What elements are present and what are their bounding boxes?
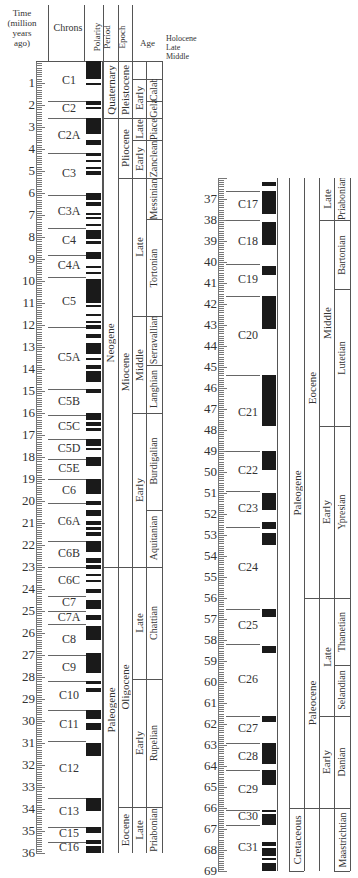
chron-boundary xyxy=(226,451,260,452)
normal-polarity-bar xyxy=(86,193,101,200)
normal-polarity-bar xyxy=(262,863,276,871)
age-label: Piacenzian xyxy=(148,118,160,140)
epoch-label: Eocene xyxy=(119,807,131,853)
axis-tick-label: 11 xyxy=(0,295,35,311)
axis-tick xyxy=(36,611,45,612)
chron-label: C13 xyxy=(50,804,88,819)
chron-boundary xyxy=(48,228,86,229)
normal-polarity-bar xyxy=(262,609,276,617)
normal-polarity-bar xyxy=(86,252,101,259)
axis-line xyxy=(218,178,219,871)
normal-polarity-bar xyxy=(86,521,101,525)
normal-polarity-bar xyxy=(86,325,101,329)
axis-tick xyxy=(36,721,45,722)
normal-polarity-bar xyxy=(262,266,276,274)
age-label: Aquitanian xyxy=(148,510,160,567)
chron-label: C25 xyxy=(228,618,268,633)
normal-polarity-bar xyxy=(86,230,101,239)
chron-boundary xyxy=(48,541,86,542)
axis-tick-label: 35 xyxy=(0,823,35,839)
chron-boundary xyxy=(48,681,86,682)
age-label: Priabonian xyxy=(336,178,348,220)
axis-tick-label: 58 xyxy=(190,632,217,648)
chron-boundary xyxy=(226,375,260,376)
normal-polarity-bar xyxy=(86,241,101,243)
normal-polarity-bar xyxy=(262,533,276,546)
age-label: Serravallian xyxy=(148,316,160,364)
axis-tick xyxy=(218,640,227,641)
axis-tick-label: 65 xyxy=(190,779,217,795)
axis-tick-label: 27 xyxy=(0,647,35,663)
axis-tick-label: 29 xyxy=(0,691,35,707)
axis-tick xyxy=(36,545,45,546)
axis-tick xyxy=(36,567,45,568)
chron-boundary xyxy=(226,296,260,297)
axis-tick-label: 5 xyxy=(0,163,35,179)
chron-boundary xyxy=(48,503,86,504)
chron-boundary xyxy=(48,624,86,625)
normal-polarity-bar xyxy=(86,532,101,536)
axis-tick-label: 9 xyxy=(0,251,35,267)
subepoch-label: Early xyxy=(320,426,332,598)
axis-tick xyxy=(218,745,227,746)
axis-tick xyxy=(218,514,227,515)
header-column-divider xyxy=(118,5,119,61)
axis-tick xyxy=(36,633,45,634)
chron-boundary xyxy=(226,609,260,610)
normal-polarity-bar xyxy=(86,224,101,226)
chron-boundary xyxy=(226,264,260,265)
chron-boundary xyxy=(48,798,86,799)
normal-polarity-bar xyxy=(86,171,101,175)
axis-tick xyxy=(218,262,227,263)
column-divider xyxy=(162,61,163,853)
normal-polarity-bar xyxy=(86,479,101,494)
normal-polarity-bar xyxy=(86,202,101,206)
normal-polarity-bar xyxy=(86,615,101,619)
chron-label: C1 xyxy=(50,73,88,88)
chron-label: C5E xyxy=(50,461,88,476)
axis-tick-label: 63 xyxy=(190,737,217,753)
period-label: Cretaceous xyxy=(291,808,303,871)
axis-tick xyxy=(36,699,45,700)
normal-polarity-bar xyxy=(86,371,101,382)
axis-tick-label: 59 xyxy=(190,653,217,669)
header-time-line: Time xyxy=(2,8,42,18)
normal-polarity-bar xyxy=(86,118,101,133)
chron-boundary xyxy=(48,741,86,742)
axis-tick-label: 1 xyxy=(0,75,35,91)
axis-tick xyxy=(36,127,45,128)
normal-polarity-bar xyxy=(86,107,101,109)
chron-label: C6 xyxy=(50,483,88,498)
subepoch-label: Early xyxy=(133,679,145,807)
normal-polarity-bar xyxy=(262,646,276,652)
header-column-divider xyxy=(48,5,49,61)
normal-polarity-bar xyxy=(86,439,101,446)
normal-polarity-bar xyxy=(86,321,101,323)
chron-label: C12 xyxy=(50,761,88,776)
chron-boundary xyxy=(48,567,86,568)
chron-label: C16 xyxy=(50,840,88,855)
axis-tick-label: 32 xyxy=(0,757,35,773)
subepoch-label: Middle xyxy=(133,316,145,413)
normal-polarity-bar xyxy=(262,814,276,825)
subepoch-label: Early xyxy=(133,79,145,119)
axis-tick xyxy=(218,388,227,389)
axis-tick-label: 4 xyxy=(0,141,35,157)
column-divider xyxy=(350,178,351,871)
axis-tick-label: 66 xyxy=(190,800,217,816)
normal-polarity-bar xyxy=(262,522,276,528)
axis-tick-label: 69 xyxy=(190,863,217,878)
axis-tick xyxy=(218,178,227,179)
chron-boundary xyxy=(48,195,86,196)
normal-polarity-bar xyxy=(86,428,101,430)
axis-tick-label: 46 xyxy=(190,380,217,396)
normal-polarity-bar xyxy=(86,422,101,426)
axis-tick-label: 49 xyxy=(190,443,217,459)
axis-tick-label: 52 xyxy=(190,506,217,522)
age-label: Messinian xyxy=(148,178,160,220)
normal-polarity-bar xyxy=(86,574,101,576)
axis-tick xyxy=(218,283,227,284)
chron-label: C10 xyxy=(50,688,88,703)
axis-tick xyxy=(36,259,45,260)
normal-polarity-bar xyxy=(86,558,101,562)
